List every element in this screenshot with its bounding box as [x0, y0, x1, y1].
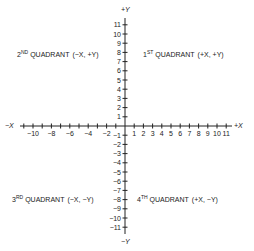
y-tick-label: 8	[117, 49, 121, 56]
x-tick-label: −2	[103, 130, 111, 137]
y-tick-label: 4	[117, 86, 121, 93]
y-tick-label: −6	[113, 178, 121, 185]
y-tick-label: 11	[114, 21, 121, 28]
x-tick-label: 2	[141, 130, 145, 137]
y-tick-label: 9	[117, 40, 121, 47]
y-tick-label: 2	[117, 104, 121, 111]
y-tick-label: 6	[117, 67, 121, 74]
coordinate-plane: 1234567891011−1−2−3−4−5−6−7−8−9−10−11 12…	[0, 0, 254, 251]
y-tick-label: −10	[109, 215, 121, 222]
y-tick-label: 5	[117, 77, 121, 84]
x-tick-label: 7	[187, 130, 191, 137]
x-negative-label: −X	[5, 122, 14, 129]
y-tick-label: −5	[113, 169, 121, 176]
y-tick-label: −4	[113, 159, 121, 166]
y-tick-label: −3	[113, 150, 121, 157]
quadrant-4-label: 4THQUADRANT(+X, −Y)	[137, 194, 218, 204]
x-tick-label: −4	[84, 130, 92, 137]
x-tick-label: 5	[169, 130, 173, 137]
x-tick-label: −10	[27, 130, 39, 137]
x-tick-label: 3	[151, 130, 155, 137]
y-tick-label: −9	[113, 205, 121, 212]
y-tick-label: 10	[113, 31, 121, 38]
x-tick-label: 6	[178, 130, 182, 137]
x-tick-label: 4	[160, 130, 164, 137]
y-tick-label: −1	[113, 132, 121, 139]
y-tick-label: −2	[113, 141, 121, 148]
y-tick-label: −8	[113, 196, 121, 203]
y-tick-label: 7	[117, 58, 121, 65]
x-tick-label: 8	[197, 130, 201, 137]
y-tick-label: −11	[110, 224, 121, 231]
x-tick-label: 10	[213, 130, 221, 137]
y-tick-label: −7	[113, 187, 121, 194]
x-tick-label: −8	[47, 130, 55, 137]
x-tick-label: −6	[66, 130, 74, 137]
x-tick-label: 11	[223, 130, 230, 137]
x-tick-label: 9	[206, 130, 210, 137]
x-tick-label: 1	[132, 130, 136, 137]
x-positive-label: +X	[234, 122, 243, 129]
y-tick-label: 3	[117, 95, 121, 102]
quadrant-3-label: 3RDQUADRANT(−X, −Y)	[12, 194, 94, 204]
y-positive-label: +Y	[121, 6, 131, 13]
y-negative-label: −Y	[121, 238, 131, 245]
quadrant-2-label: 2NDQUADRANT(−X, +Y)	[17, 49, 99, 59]
y-tick-label: 1	[117, 113, 121, 120]
quadrant-1-label: 1STQUADRANT(+X, +Y)	[143, 49, 224, 59]
